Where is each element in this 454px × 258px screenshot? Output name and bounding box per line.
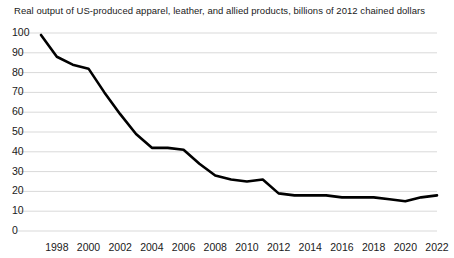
y-axis-tick-label: 0 — [12, 224, 38, 236]
y-axis-tick-label: 80 — [12, 66, 38, 78]
x-axis-tick-label: 2000 — [72, 241, 106, 253]
x-axis-tick-label: 2014 — [293, 241, 327, 253]
y-axis-tick-label: 90 — [12, 46, 38, 58]
y-axis-tick-label: 40 — [12, 145, 38, 157]
x-axis-tick-label: 2002 — [103, 241, 137, 253]
y-axis-tick-label: 10 — [12, 204, 38, 216]
y-axis-tick-label: 20 — [12, 184, 38, 196]
x-axis-tick-label: 2006 — [167, 241, 201, 253]
x-axis-tick-label: 2010 — [230, 241, 264, 253]
x-axis-tick-label: 2018 — [357, 241, 391, 253]
x-axis-tick-label: 2012 — [262, 241, 296, 253]
chart-svg — [0, 0, 454, 258]
x-axis-tick-label: 2008 — [198, 241, 232, 253]
y-axis-tick-label: 70 — [12, 85, 38, 97]
y-axis-tick-label: 100 — [12, 26, 38, 38]
x-axis-tick-label: 2004 — [135, 241, 169, 253]
plot-area: 0102030405060708090100 19982000200220042… — [0, 0, 454, 258]
y-axis-tick-label: 50 — [12, 125, 38, 137]
x-axis-tick-label: 2016 — [325, 241, 359, 253]
x-axis-tick-label: 2020 — [388, 241, 422, 253]
y-axis-tick-label: 60 — [12, 105, 38, 117]
line-series-path — [41, 35, 437, 201]
gridlines — [16, 33, 437, 231]
y-axis-tick-label: 30 — [12, 165, 38, 177]
data-series-group — [41, 35, 437, 201]
x-axis-tick-label: 1998 — [40, 241, 74, 253]
x-axis-tick-label: 2022 — [420, 241, 454, 253]
chart-container: Real output of US-produced apparel, leat… — [0, 0, 454, 258]
